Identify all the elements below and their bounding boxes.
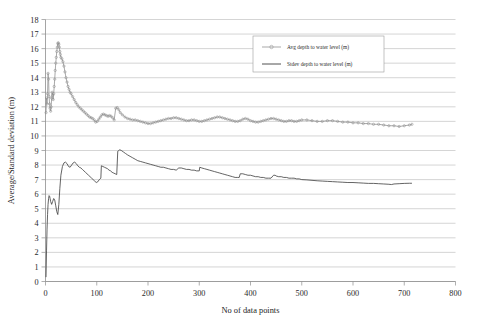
y-tick-label: 10 <box>30 132 38 141</box>
legend-label: Stdev depth to water level (m) <box>287 61 353 68</box>
y-axis-title: Average/Standard deviation (m) <box>7 97 16 204</box>
x-tick-label: 600 <box>347 289 359 298</box>
chart-canvas: 0100200300400500600700800 01234567891011… <box>0 0 498 323</box>
x-tick-label: 200 <box>142 289 154 298</box>
x-tick-label: 800 <box>449 289 461 298</box>
y-tick-label: 14 <box>30 74 38 83</box>
y-tick-label: 16 <box>30 45 38 54</box>
x-axis-ticks: 0100200300400500600700800 <box>43 282 461 298</box>
gridlines <box>46 20 456 282</box>
y-tick-label: 7 <box>34 176 38 185</box>
y-tick-label: 3 <box>34 234 38 243</box>
y-tick-label: 12 <box>30 103 38 112</box>
y-tick-label: 8 <box>34 161 38 170</box>
y-tick-label: 1 <box>34 263 38 272</box>
x-tick-label: 300 <box>193 289 205 298</box>
x-tick-label: 0 <box>43 289 47 298</box>
chart-legend: Avg depth to water level (m)Stdev depth … <box>253 36 384 72</box>
y-tick-label: 2 <box>34 248 38 257</box>
y-tick-label: 5 <box>34 205 38 214</box>
x-tick-label: 100 <box>91 289 103 298</box>
y-tick-label: 0 <box>34 278 38 287</box>
y-tick-label: 9 <box>34 147 38 156</box>
y-tick-label: 13 <box>30 88 38 97</box>
y-tick-label: 4 <box>34 219 38 228</box>
y-axis-ticks: 0123456789101112131415161718 <box>30 16 45 287</box>
x-tick-label: 700 <box>398 289 410 298</box>
legend-label: Avg depth to water level (m) <box>287 44 349 51</box>
x-tick-label: 500 <box>296 289 308 298</box>
y-tick-label: 6 <box>34 190 38 199</box>
y-tick-label: 18 <box>30 16 38 25</box>
series-stdev <box>46 150 412 277</box>
y-tick-label: 17 <box>30 30 38 39</box>
chart-figure: 0100200300400500600700800 01234567891011… <box>0 0 498 323</box>
y-tick-label: 11 <box>31 117 39 126</box>
y-tick-label: 15 <box>30 59 38 68</box>
x-tick-label: 400 <box>244 289 256 298</box>
data-series-layer <box>45 42 413 277</box>
x-axis-title: No of data points <box>222 306 280 315</box>
